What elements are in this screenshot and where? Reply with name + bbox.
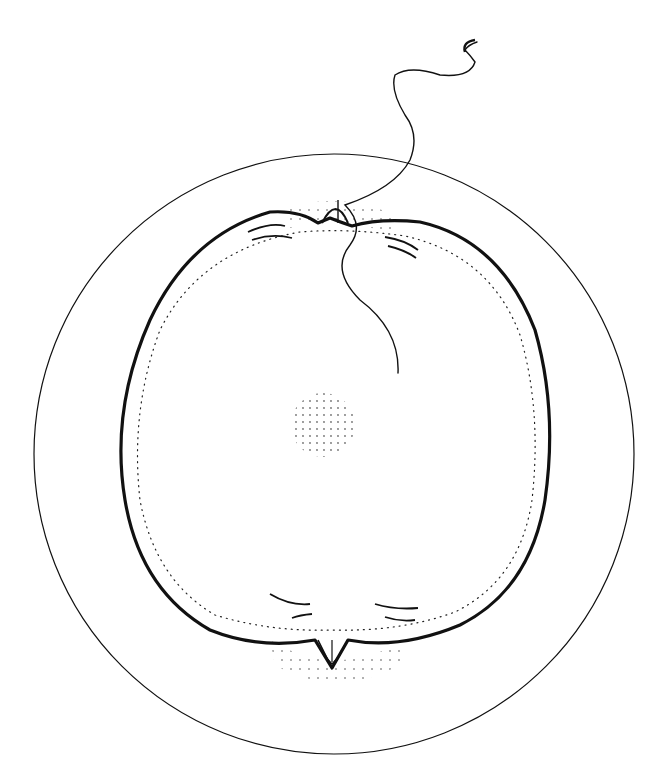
- nucleus: [291, 393, 355, 457]
- egg-diagram: [0, 0, 667, 777]
